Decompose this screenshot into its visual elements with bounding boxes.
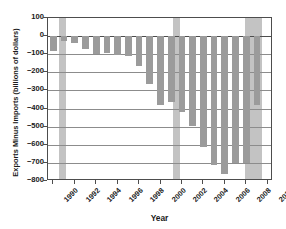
- x-tick-mark: [117, 180, 118, 184]
- x-tick-mark: [245, 180, 246, 184]
- x-tick-label: 1998: [148, 186, 166, 204]
- bar: [114, 36, 121, 55]
- y-tick-label: −600: [14, 140, 44, 148]
- x-tick-mark: [202, 180, 203, 184]
- x-tick-label: 2002: [191, 186, 209, 204]
- x-tick-mark: [52, 180, 53, 184]
- y-tick-label: −400: [14, 104, 44, 112]
- bar: [146, 36, 153, 84]
- bar: [232, 36, 239, 163]
- bar: [168, 36, 175, 102]
- bar: [254, 36, 261, 105]
- y-tick-label: −700: [14, 158, 44, 166]
- x-tick-mark: [95, 180, 96, 184]
- bar: [221, 36, 228, 173]
- recession-band: [59, 18, 67, 179]
- bar: [104, 36, 111, 53]
- y-tick-label: 100: [14, 13, 44, 21]
- x-tick-label: 1994: [105, 186, 123, 204]
- x-tick-mark: [138, 180, 139, 184]
- x-tick-label: 2000: [169, 186, 187, 204]
- bar: [125, 36, 132, 56]
- bar: [243, 36, 250, 162]
- x-axis-title: Year: [47, 213, 272, 223]
- bar: [93, 36, 100, 54]
- x-tick-mark: [224, 180, 225, 184]
- x-tick-label: 1992: [84, 186, 102, 204]
- x-tick-label: 2010: [276, 186, 286, 204]
- x-tick-mark: [267, 180, 268, 184]
- gridline: [48, 163, 271, 164]
- plot-area: [47, 17, 272, 180]
- bar: [157, 36, 164, 104]
- x-tick-label: 2008: [255, 186, 273, 204]
- x-tick-mark: [181, 180, 182, 184]
- bar: [136, 36, 143, 66]
- bar: [61, 36, 68, 41]
- y-tick-label: −100: [14, 49, 44, 57]
- y-tick-label: 0: [14, 31, 44, 39]
- bar: [211, 36, 218, 165]
- x-tick-label: 1996: [126, 186, 144, 204]
- x-tick-label: 1990: [62, 186, 80, 204]
- y-tick-mark: [43, 180, 47, 181]
- bar: [71, 36, 78, 43]
- y-axis-tick-labels: 1000−100−200−300−400−500−600−700−800: [8, 17, 44, 180]
- x-tick-label: 2006: [234, 186, 252, 204]
- bar: [82, 36, 89, 49]
- bar: [189, 36, 196, 125]
- bar: [200, 36, 207, 146]
- y-tick-label: −300: [14, 85, 44, 93]
- bar-chart: Exports Minus Imports (billions of dolla…: [0, 0, 286, 229]
- bar: [179, 36, 186, 112]
- x-tick-mark: [74, 180, 75, 184]
- y-tick-label: −800: [14, 176, 44, 184]
- x-tick-mark: [160, 180, 161, 184]
- bar: [50, 36, 57, 50]
- y-tick-label: −500: [14, 122, 44, 130]
- x-tick-label: 2004: [212, 186, 230, 204]
- y-tick-label: −200: [14, 67, 44, 75]
